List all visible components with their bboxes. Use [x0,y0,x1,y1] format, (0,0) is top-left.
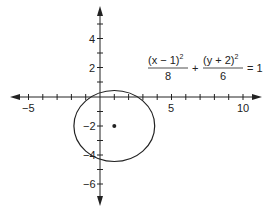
y-tick-label-2: 2 [89,62,95,74]
svg-text:(y + 2)2: (y + 2)2 [203,53,238,66]
y-axis-down-arrow-icon [97,196,103,206]
term2-denominator: 6 [220,70,226,82]
ellipse-center-point [112,124,116,128]
x-tick-label-5: 5 [168,102,174,114]
y-tick-label-4: 4 [89,33,95,45]
coordinate-plane: −5 5 10 4 2 −2 −4 −6 (x − 1)2 [0,0,276,212]
term1-exponent: 2 [179,53,183,60]
x-tick-label-10: 10 [237,102,249,114]
x-axis: −5 5 10 [10,94,262,114]
y-tick-label-neg2: −2 [83,120,96,132]
equals-one: = 1 [247,62,263,74]
y-tick-label-neg6: −6 [83,178,96,190]
x-axis-right-arrow-icon [252,94,262,100]
x-tick-label-neg5: −5 [22,102,35,114]
plus-sign: + [192,62,198,74]
term2-numerator: (y + 2) [203,54,234,66]
term1-numerator: (x − 1) [148,54,179,66]
term2-exponent: 2 [234,53,238,60]
y-axis-up-arrow-icon [97,6,103,16]
x-axis-left-arrow-icon [10,94,20,100]
term1-denominator: 8 [165,70,171,82]
y-axis: 4 2 −2 −4 −6 [83,6,103,206]
svg-text:(x − 1)2: (x − 1)2 [148,53,183,66]
ellipse-equation: (x − 1)2 8 + (y + 2)2 6 = 1 [148,53,263,82]
